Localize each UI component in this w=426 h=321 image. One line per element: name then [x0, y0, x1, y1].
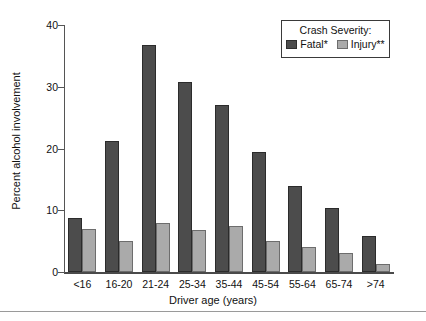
bar [362, 236, 376, 272]
x-axis-baseline [64, 272, 394, 274]
y-tick-label-wrap: 40 [26, 20, 58, 30]
y-tick-label-wrap: 0 [26, 267, 58, 277]
y-tick-label: 20 [32, 144, 58, 154]
footer-divider [0, 311, 426, 312]
y-tick-label-wrap: 30 [26, 82, 58, 92]
legend: Crash Severity: Fatal*Injury** [281, 20, 390, 58]
bar [288, 186, 302, 272]
bar [376, 264, 390, 272]
bar [142, 45, 156, 272]
bar [325, 208, 339, 272]
bar [229, 226, 243, 272]
y-tick-label: 0 [32, 267, 58, 277]
bar [82, 229, 96, 272]
bar-group [215, 25, 243, 272]
legend-swatch-icon [337, 40, 348, 49]
y-axis-title: Percent alcohol involvement [10, 31, 22, 251]
y-tick-label: 10 [32, 205, 58, 215]
y-tick-label: 40 [32, 20, 58, 30]
y-tick-mark [58, 210, 65, 211]
bar-group [288, 25, 316, 272]
y-tick-mark [58, 87, 65, 88]
bar [119, 241, 133, 272]
bar [339, 253, 353, 272]
y-tick-mark [58, 149, 65, 150]
y-tick-mark [58, 272, 65, 273]
bar [68, 218, 82, 272]
bar-group [105, 25, 133, 272]
bar-group [68, 25, 96, 272]
y-tick-label: 30 [32, 82, 58, 92]
legend-item-label: Fatal* [300, 39, 327, 50]
bar [105, 141, 119, 272]
bar [266, 241, 280, 272]
bar [192, 230, 206, 272]
legend-items: Fatal*Injury** [286, 39, 385, 50]
chart-figure: 010203040 <1616-2021-2425-3435-4445-5455… [0, 0, 426, 321]
bar-group [325, 25, 353, 272]
bar-group [362, 25, 390, 272]
legend-item[interactable]: Injury** [337, 39, 385, 50]
y-tick-mark [58, 25, 65, 26]
legend-item[interactable]: Fatal* [286, 39, 327, 50]
bar [302, 247, 316, 272]
bar [252, 152, 266, 272]
bar-group [142, 25, 170, 272]
x-axis-title: Driver age (years) [0, 294, 426, 306]
legend-title: Crash Severity: [286, 24, 385, 37]
x-tick-label: >74 [348, 278, 404, 290]
bar [178, 82, 192, 272]
legend-swatch-icon [286, 40, 297, 49]
y-tick-label-wrap: 20 [26, 144, 58, 154]
bar-group [178, 25, 206, 272]
bar-group [252, 25, 280, 272]
y-tick-label-wrap: 10 [26, 205, 58, 215]
legend-item-label: Injury** [351, 39, 385, 50]
bar [215, 105, 229, 272]
bar [156, 223, 170, 272]
